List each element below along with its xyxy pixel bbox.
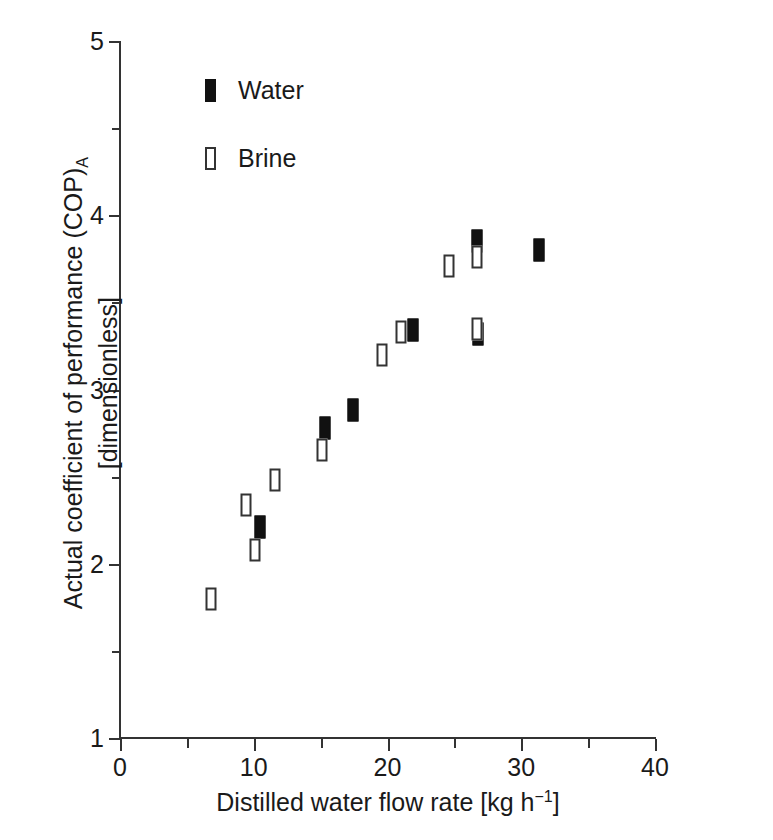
x-tick-major xyxy=(120,739,122,751)
x-tick-label: 10 xyxy=(240,755,268,780)
y-axis-title-subscript: A xyxy=(74,157,91,168)
x-tick-minor xyxy=(454,739,456,748)
data-point-brine xyxy=(270,469,281,492)
x-tick-minor xyxy=(588,739,590,748)
data-point-water xyxy=(255,516,266,539)
data-point-brine xyxy=(205,587,216,610)
x-tick-minor xyxy=(321,739,323,748)
brine-marker-icon xyxy=(205,147,216,170)
data-point-brine xyxy=(316,439,327,462)
x-axis-title: Distilled water flow rate [kg h−1] xyxy=(120,788,656,817)
x-axis-title-tail: ] xyxy=(553,788,560,816)
x-axis-title-main: Distilled water flow rate [kg h xyxy=(216,788,534,816)
y-axis-title-line1: Actual coefficient of performance (COP)A xyxy=(58,33,93,733)
legend-item-water: Water xyxy=(205,70,445,110)
x-tick-label: 20 xyxy=(374,755,402,780)
data-point-water xyxy=(533,239,544,262)
data-point-brine xyxy=(444,254,455,277)
x-tick-major xyxy=(388,739,390,751)
data-point-brine xyxy=(472,246,483,269)
data-point-brine xyxy=(377,343,388,366)
data-point-water xyxy=(319,416,330,439)
data-point-brine xyxy=(250,538,261,561)
data-point-brine xyxy=(395,320,406,343)
data-point-water xyxy=(407,319,418,342)
water-marker-icon xyxy=(205,79,216,102)
x-tick-major xyxy=(254,739,256,751)
y-axis-title-line2: [dimensionless] xyxy=(93,33,124,733)
data-point-brine xyxy=(240,493,251,516)
data-point-brine xyxy=(472,317,483,340)
legend-item-brine: Brine xyxy=(205,138,445,178)
legend-label-brine: Brine xyxy=(238,144,296,173)
x-tick-label: 0 xyxy=(113,755,127,780)
legend-label-water: Water xyxy=(238,76,304,105)
y-tick-major xyxy=(109,738,120,740)
x-axis-title-exponent: −1 xyxy=(534,788,552,805)
x-tick-minor xyxy=(187,739,189,748)
data-point-water xyxy=(347,399,358,422)
y-axis-title-main: Actual coefficient of performance (COP) xyxy=(59,168,87,609)
chart-legend: Water Brine xyxy=(205,70,445,206)
x-tick-major xyxy=(521,739,523,751)
y-axis-title: Actual coefficient of performance (COP)A… xyxy=(58,33,124,733)
x-tick-label: 30 xyxy=(507,755,535,780)
scatter-chart-figure: 12345 010203040 Water Brine Distilled wa… xyxy=(0,0,773,840)
x-tick-major xyxy=(655,739,657,751)
x-tick-label: 40 xyxy=(641,755,669,780)
